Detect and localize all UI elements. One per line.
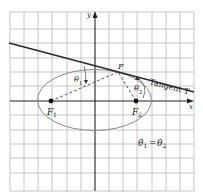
focal-radius-1 bbox=[51, 72, 118, 101]
focus-1-label: F 1 bbox=[46, 107, 57, 118]
svg-text:2: 2 bbox=[163, 142, 167, 149]
ellipse-tangent-diagram: x y P Tangent T F 1 F 2 bbox=[0, 0, 203, 196]
svg-text:2: 2 bbox=[138, 111, 142, 118]
angle-equation: θ 1 = θ 2 bbox=[138, 138, 167, 149]
svg-text:1: 1 bbox=[53, 111, 57, 118]
svg-text:=: = bbox=[149, 138, 157, 148]
focus-1-point bbox=[49, 99, 54, 104]
svg-text:1: 1 bbox=[79, 80, 83, 86]
svg-text:2: 2 bbox=[139, 89, 143, 95]
x-axis-label: x bbox=[189, 103, 193, 111]
focus-2-label: F 2 bbox=[131, 107, 142, 118]
theta1-arrow-icon bbox=[84, 80, 88, 84]
focus-2-point bbox=[134, 99, 139, 104]
point-p-label: P bbox=[117, 62, 124, 71]
tangent-label: Tangent T bbox=[148, 77, 190, 96]
theta1-arc bbox=[84, 66, 86, 82]
svg-text:1: 1 bbox=[144, 142, 148, 149]
